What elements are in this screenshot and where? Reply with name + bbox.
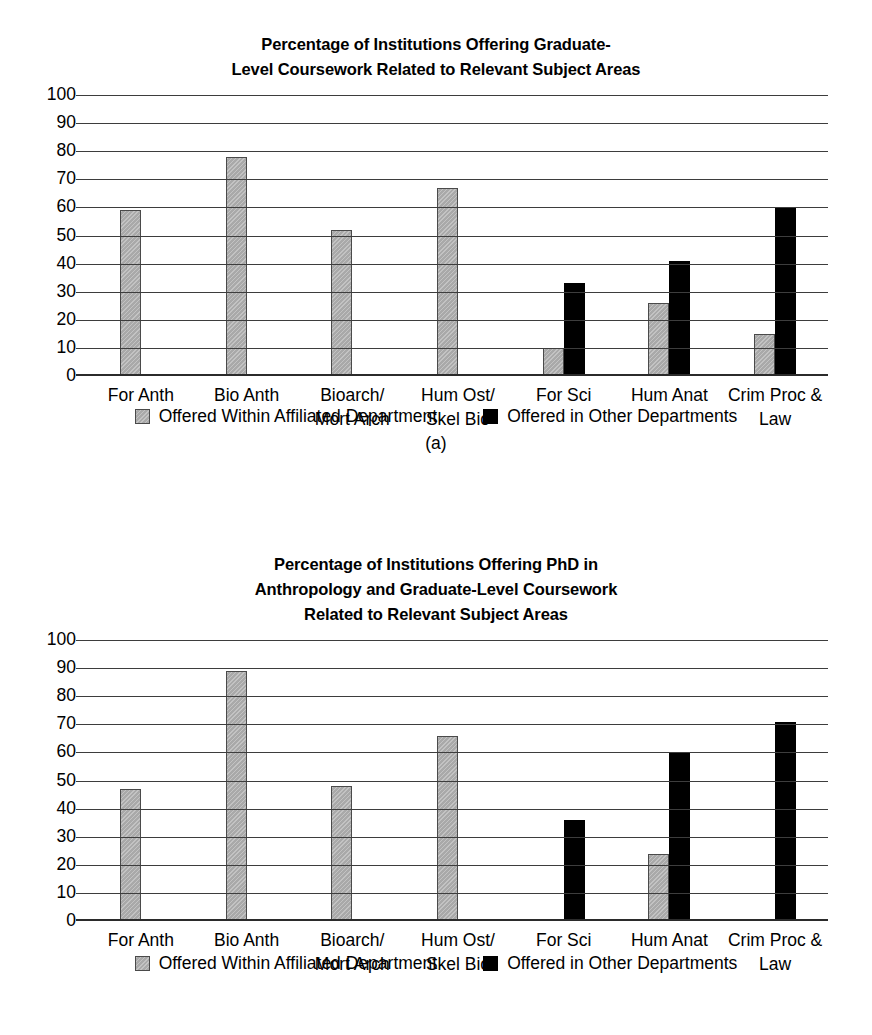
- chart-a-plot: 0102030405060708090100 For AnthBio AnthB…: [36, 95, 836, 390]
- gridline: [88, 207, 828, 208]
- y-tick-label: 60: [57, 744, 76, 762]
- y-tick-label: 30: [57, 828, 76, 846]
- bar: [754, 334, 775, 376]
- x-tick-label: Bio Anth: [194, 928, 300, 952]
- gridline: [88, 348, 828, 349]
- y-tick-label: 50: [57, 227, 76, 245]
- y-tick-label: 30: [57, 283, 76, 301]
- chart-a-baseline: [76, 374, 828, 376]
- gridline: [88, 292, 828, 293]
- x-tick-label: For Anth: [88, 928, 194, 952]
- gridline: [88, 865, 828, 866]
- y-tick-label: 100: [47, 86, 76, 104]
- y-tick-mark: [76, 893, 88, 894]
- bar: [648, 303, 669, 376]
- y-tick-label: 20: [57, 856, 76, 874]
- y-tick-mark: [76, 320, 88, 321]
- x-tick-label: Bioarch/ Mort Arch: [299, 383, 405, 431]
- y-tick-label: 70: [57, 171, 76, 189]
- y-tick-label: 80: [57, 142, 76, 160]
- y-tick-label: 0: [66, 912, 76, 930]
- gridline: [88, 781, 828, 782]
- figure-a: Percentage of Institutions Offering Grad…: [0, 0, 872, 540]
- y-tick-mark: [76, 809, 88, 810]
- chart-b-title-line1: Percentage of Institutions Offering PhD …: [136, 552, 736, 577]
- y-tick-mark: [76, 264, 88, 265]
- y-tick-mark: [76, 292, 88, 293]
- x-tick-label: Hum Anat: [617, 928, 723, 952]
- y-tick-label: 90: [57, 114, 76, 132]
- chart-a-x-axis: For AnthBio AnthBioarch/ Mort ArchHum Os…: [88, 383, 828, 439]
- bar: [226, 157, 247, 376]
- y-tick-mark: [76, 781, 88, 782]
- y-tick-label: 10: [57, 884, 76, 902]
- y-tick-mark: [76, 752, 88, 753]
- gridline: [88, 264, 828, 265]
- y-tick-label: 50: [57, 772, 76, 790]
- figure-b: Percentage of Institutions Offering PhD …: [0, 540, 872, 1035]
- x-tick-label: For Sci: [511, 383, 617, 407]
- x-tick-label: For Anth: [88, 383, 194, 407]
- bar: [564, 283, 585, 376]
- gridline: [88, 640, 828, 641]
- chart-b-baseline: [76, 919, 828, 921]
- bar: [543, 348, 564, 376]
- gridline: [88, 893, 828, 894]
- x-tick-label: Hum Ost/ Skel Bio: [405, 383, 511, 431]
- bar: [331, 230, 352, 376]
- x-tick-label: Crim Proc & Law: [722, 383, 828, 431]
- y-tick-mark: [76, 151, 88, 152]
- y-tick-mark: [76, 696, 88, 697]
- y-tick-mark: [76, 179, 88, 180]
- y-tick-mark: [76, 837, 88, 838]
- gridline: [88, 724, 828, 725]
- x-tick-label: Hum Anat: [617, 383, 723, 407]
- chart-b-title-line3: Related to Relevant Subject Areas: [136, 602, 736, 627]
- gridline: [88, 179, 828, 180]
- y-tick-label: 10: [57, 339, 76, 357]
- gridline: [88, 696, 828, 697]
- y-tick-label: 80: [57, 687, 76, 705]
- bar: [669, 261, 690, 376]
- gridline: [88, 668, 828, 669]
- y-tick-label: 70: [57, 716, 76, 734]
- gridline: [88, 837, 828, 838]
- bar: [226, 671, 247, 921]
- chart-b-title-line2: Anthropology and Graduate-Level Coursewo…: [136, 577, 736, 602]
- bar: [648, 854, 669, 921]
- chart-b-plot: 0102030405060708090100 For AnthBio AnthB…: [36, 640, 836, 935]
- y-tick-mark: [76, 640, 88, 641]
- chart-a-plot-area: [88, 95, 828, 376]
- y-tick-label: 60: [57, 199, 76, 217]
- y-tick-mark: [76, 348, 88, 349]
- chart-b-title: Percentage of Institutions Offering PhD …: [136, 540, 736, 627]
- y-tick-label: 90: [57, 659, 76, 677]
- gridline: [88, 95, 828, 96]
- x-tick-label: Bio Anth: [194, 383, 300, 407]
- gridline: [88, 809, 828, 810]
- y-tick-label: 40: [57, 800, 76, 818]
- chart-a-title: Percentage of Institutions Offering Grad…: [136, 0, 736, 82]
- chart-b-plot-area: [88, 640, 828, 921]
- gridline: [88, 320, 828, 321]
- chart-b-x-axis: For AnthBio AnthBioarch/ Mort ArchHum Os…: [88, 928, 828, 984]
- gridline: [88, 123, 828, 124]
- gridline: [88, 752, 828, 753]
- gridline: [88, 151, 828, 152]
- y-tick-label: 40: [57, 255, 76, 273]
- x-tick-label: Crim Proc & Law: [722, 928, 828, 976]
- y-tick-label: 100: [47, 631, 76, 649]
- bar: [331, 786, 352, 921]
- chart-a-title-line1: Percentage of Institutions Offering Grad…: [136, 32, 736, 57]
- x-tick-label: Bioarch/ Mort Arch: [299, 928, 405, 976]
- y-tick-label: 20: [57, 311, 76, 329]
- bar: [564, 820, 585, 921]
- y-tick-mark: [76, 724, 88, 725]
- chart-a-title-line2: Level Coursework Related to Relevant Sub…: [136, 57, 736, 82]
- y-tick-mark: [76, 668, 88, 669]
- x-tick-label: Hum Ost/ Skel Bio: [405, 928, 511, 976]
- y-tick-mark: [76, 236, 88, 237]
- y-tick-mark: [76, 123, 88, 124]
- y-tick-mark: [76, 865, 88, 866]
- y-tick-mark: [76, 95, 88, 96]
